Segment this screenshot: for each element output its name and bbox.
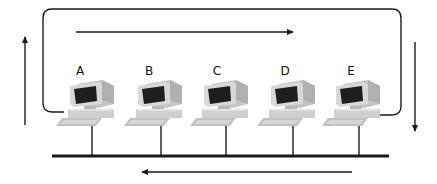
network-diagram: A B C D E	[0, 0, 437, 184]
node-label: C	[213, 64, 221, 78]
computer-icon	[257, 80, 315, 126]
node-label: E	[347, 64, 355, 78]
computer-node-e: E	[322, 64, 380, 156]
computer-icon	[190, 80, 248, 126]
computer-node-d: D	[257, 64, 315, 156]
computer-node-c: C	[190, 64, 248, 156]
node-label: B	[145, 64, 153, 78]
computer-icon	[322, 80, 380, 126]
node-label: D	[280, 64, 289, 78]
computer-icon	[56, 80, 114, 126]
computer-node-a: A	[56, 64, 114, 156]
computer-icon	[124, 80, 182, 126]
node-label: A	[76, 64, 85, 78]
computer-node-b: B	[124, 64, 182, 156]
